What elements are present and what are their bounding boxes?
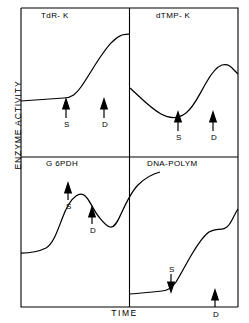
marker-arrow-s-g6pdh	[65, 183, 72, 200]
marker-arrow-d-tdr-k	[101, 99, 108, 118]
figure-canvas	[0, 0, 249, 323]
marker-arrow-d-dna-polym	[212, 290, 219, 307]
curve-tdr-k	[21, 34, 129, 101]
curve-dna-polym	[130, 209, 238, 294]
curve-dtmp-k	[130, 65, 238, 118]
axis-frame	[21, 8, 238, 307]
marker-arrow-s-tdr-k	[63, 99, 70, 118]
enzyme-activity-figure: ENZYME ACTIVITY TIME TdR- K dTMP- K G 6P…	[0, 0, 249, 323]
marker-arrow-d-dtmp-k	[210, 112, 217, 131]
marker-arrow-s-dtmp-k	[175, 112, 182, 131]
